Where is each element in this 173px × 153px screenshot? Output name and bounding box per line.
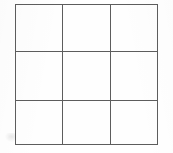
grid-cell-r2c3[interactable]: [111, 52, 158, 101]
grid-canvas: [0, 0, 173, 153]
grid-cell-r3c2[interactable]: [63, 101, 111, 145]
grid-row: [16, 5, 158, 52]
grid-cell-r1c1[interactable]: [16, 5, 63, 52]
grid-row: [16, 101, 158, 145]
grid-cell-r3c3[interactable]: [111, 101, 158, 145]
grid-cell-r3c1[interactable]: [16, 101, 63, 145]
three-by-three-grid: [15, 4, 158, 145]
grid-cell-r1c2[interactable]: [63, 5, 111, 52]
grid-cell-r1c3[interactable]: [111, 5, 158, 52]
grid-cell-r2c2[interactable]: [63, 52, 111, 101]
grid-body: [16, 5, 158, 145]
grid-cell-r2c1[interactable]: [16, 52, 63, 101]
grid-row: [16, 52, 158, 101]
